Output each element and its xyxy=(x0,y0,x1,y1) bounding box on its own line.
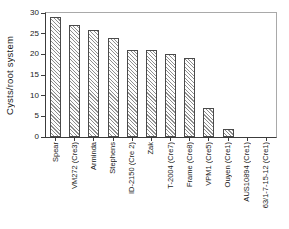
bar xyxy=(108,38,119,137)
x-tick-label: Stephens xyxy=(108,142,118,174)
x-tick-label: VM272 (Cre3) xyxy=(70,142,80,189)
x-tick-label: Ouyen (Cre1) xyxy=(223,142,233,187)
y-axis-tick xyxy=(41,33,45,34)
x-tick-label: Spear xyxy=(51,142,61,162)
bar xyxy=(50,17,61,137)
x-axis-tick xyxy=(189,138,190,141)
y-tick-label: 5 xyxy=(19,112,39,120)
x-tick-label: Frame (Cre8) xyxy=(185,142,195,187)
x-tick-label: Zak xyxy=(146,142,156,155)
y-tick-label: 0 xyxy=(19,133,39,141)
y-axis-tick xyxy=(41,13,45,14)
bar xyxy=(88,30,99,137)
y-tick-label: 15 xyxy=(19,71,39,79)
x-axis-tick xyxy=(170,138,171,141)
bar xyxy=(165,54,176,137)
bar xyxy=(127,50,138,137)
x-axis-tick xyxy=(266,138,267,141)
x-tick-label: Arminda xyxy=(89,142,99,170)
bar-chart-figure: Cysts/root system 051015202530SpearVM272… xyxy=(0,0,289,229)
y-tick-label: 25 xyxy=(19,30,39,38)
x-axis-tick xyxy=(55,138,56,141)
y-axis-title: Cysts/root system xyxy=(4,36,15,115)
y-tick-label: 20 xyxy=(19,50,39,58)
bar xyxy=(223,129,234,137)
x-axis-tick xyxy=(93,138,94,141)
y-axis-tick xyxy=(41,137,45,138)
x-tick-label: AUS10894 (Cre1) xyxy=(242,142,252,202)
y-axis-tick xyxy=(41,54,45,55)
plot-area xyxy=(45,12,277,138)
y-axis-title-wrap: Cysts/root system xyxy=(1,12,17,138)
bar xyxy=(184,58,195,137)
y-tick-label: 30 xyxy=(19,9,39,17)
bar xyxy=(69,25,80,137)
y-tick-label: 10 xyxy=(19,92,39,100)
x-axis-tick xyxy=(228,138,229,141)
x-axis-tick xyxy=(113,138,114,141)
x-axis-tick xyxy=(132,138,133,141)
bar xyxy=(203,108,214,137)
x-tick-label: ID-2150 (Cre 2) xyxy=(127,142,137,194)
x-tick-label: 63/1-7-15-12 (Cre1) xyxy=(261,142,271,208)
x-axis-tick xyxy=(208,138,209,141)
y-axis-tick xyxy=(41,116,45,117)
x-tick-label: T-2004 (Cre7) xyxy=(166,142,176,189)
y-axis-tick xyxy=(41,75,45,76)
x-tick-label: VPM1 (Cre5) xyxy=(204,142,214,186)
bar xyxy=(146,50,157,137)
y-axis-tick xyxy=(41,95,45,96)
x-axis-tick xyxy=(247,138,248,141)
x-axis-tick xyxy=(74,138,75,141)
